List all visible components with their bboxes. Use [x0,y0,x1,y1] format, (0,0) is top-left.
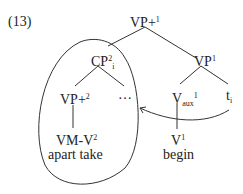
node-label: VP+ [130,15,156,30]
node-cp: CP2i [91,52,114,74]
node-ellipsis: … [118,88,132,102]
node-superscript: 1 [212,54,216,63]
node-root-vp-plus: VP+1 [130,13,160,30]
node-superscript: 1 [156,15,160,24]
node-vaux: Vaux1 [172,89,198,111]
node-label: VP [194,54,212,69]
node-subscript: i [230,96,232,105]
node-vp1: VP1 [194,52,216,69]
node-label: CP [91,54,108,69]
node-label: V [172,91,182,106]
node-vp-plus-2: VP+2 [60,90,90,107]
example-number-text: (13) [8,14,31,29]
node-subscript: aux [182,99,194,108]
node-subscript: i [112,62,114,71]
example-number: (13) [8,15,31,29]
node-superscript: 1 [181,133,185,142]
node-vm-v2: VM-V2 [56,131,97,148]
gloss-apart-take: apart take [48,148,103,162]
node-superscript: 2 [86,92,90,101]
node-superscript: 1 [194,91,198,100]
node-label: V [171,133,181,148]
node-v1: V1 [171,131,185,148]
node-superscript: 2 [93,133,97,142]
node-label: VM-V [56,133,93,148]
node-trace: ti [226,89,232,108]
ellipsis-text: … [118,87,132,102]
gloss-text: apart take [48,147,103,162]
node-label: VP+ [60,92,86,107]
gloss-text: begin [163,147,194,162]
gloss-begin: begin [163,148,194,162]
